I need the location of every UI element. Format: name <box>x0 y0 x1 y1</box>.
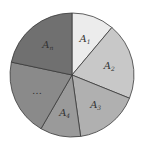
pie-chart: A1A2A3A4…An <box>0 0 144 148</box>
slice-label: … <box>32 85 42 96</box>
pie-slices <box>10 13 134 137</box>
